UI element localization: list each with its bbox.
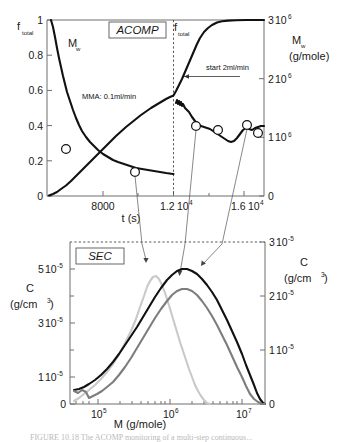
acomp-ftotal-curve [49, 20, 264, 196]
acomp-xtick-16e4-base: 10 [248, 200, 260, 212]
figure-container: 0 0.2 0.4 0.6 0.8 1 f total 0 1 10 6 2 [0, 0, 337, 442]
sec-rtick-1e-5-base: 10 [276, 344, 288, 356]
figure-caption: FIGURE 10.18 The ACOMP monitoring of a m… [30, 433, 252, 442]
sec-xtick-1e5: 10 5 [91, 407, 107, 420]
sec-rtick-3e-5-base: 10 [276, 236, 288, 248]
acomp-y-right-title-sub: w [300, 43, 306, 49]
acomp-rtick-1e6: 1 10 6 [268, 131, 292, 144]
sec-rtick-0: 0 [269, 398, 275, 410]
leader-marker-3 [185, 130, 196, 244]
acomp-panel: 0 0.2 0.4 0.6 0.8 1 f total 0 1 10 6 2 [17, 13, 329, 244]
acomp-xtick-8000: 8000 [91, 200, 115, 212]
sec-ltick-0: 0 [60, 398, 66, 410]
acomp-series-label-f-sub: total [178, 31, 189, 37]
sec-xtick-1e6-exp: 6 [175, 407, 179, 414]
sec-arrowhead-1 [143, 258, 148, 263]
sec-y-left-title: C (g/cm 3 ) [10, 282, 54, 310]
sec-ltick-3e-5-exp: -5 [57, 316, 63, 323]
acomp-rtick-1e6-base: 10 [275, 131, 287, 143]
acomp-ytick-06: 0.6 [28, 84, 43, 96]
sec-y-right-units-close: ) [324, 272, 328, 284]
leader-marker-5 [222, 129, 247, 244]
acomp-x-axis-title: t (s) [122, 212, 141, 224]
acomp-xtick-12e4-exp: 4 [189, 199, 193, 206]
acomp-left-ticks: 0 0.2 0.4 0.6 0.8 1 [28, 14, 52, 202]
sec-sample-arrows [142, 244, 222, 276]
acomp-rtick-2e6-mant: 2 [268, 73, 274, 85]
acomp-annotation-mma: MMA: 0.1ml/min [82, 92, 136, 101]
acomp-xtick-16e4-exp: 4 [260, 199, 264, 206]
acomp-y-right-title-main: M [292, 34, 301, 46]
sec-y-left-title-main: C [26, 282, 34, 294]
acomp-sec-marker-6 [254, 129, 263, 138]
sec-y-right-units: (g/cm [284, 272, 312, 284]
acomp-xtick-16e4-mant: 1.6 [231, 200, 246, 212]
acomp-annotation-start: start 2ml/min [206, 63, 249, 72]
sec-panel: 0 1 10 -5 3 10 -5 5 10 -5 C (g/cm 3 ) [10, 235, 328, 430]
sec-rtick-1e-5-mant: 1 [269, 344, 275, 356]
sec-rtick-3e-5-exp: -5 [288, 235, 294, 242]
acomp-sec-marker-2 [131, 168, 140, 177]
sec-rtick-1e-5-exp: -5 [288, 343, 294, 350]
sec-rtick-2e-5: 2 10 -5 [269, 289, 294, 302]
acomp-series-label-mw-sub: w [75, 46, 81, 52]
sec-y-right-title-main: C [300, 256, 308, 268]
acomp-ytick-04: 0.4 [28, 120, 43, 132]
acomp-rtick-2e6: 2 10 6 [268, 72, 292, 85]
sec-ltick-5e-5-exp: -5 [57, 262, 63, 269]
sec-left-ticks: 0 1 10 -5 3 10 -5 5 10 -5 [38, 262, 75, 410]
sec-ltick-3e-5-base: 10 [45, 317, 57, 329]
acomp-rtick-3e6-mant: 3 [268, 14, 274, 26]
acomp-sec-marker-1 [62, 145, 71, 154]
sec-ltick-1e-5: 1 10 -5 [38, 370, 63, 383]
acomp-y-left-title-sub: total [22, 30, 33, 36]
sec-ltick-1e-5-base: 10 [45, 371, 57, 383]
sec-ltick-5e-5-base: 10 [45, 263, 57, 275]
sec-rtick-3e-5: 3 10 -5 [269, 235, 294, 248]
sec-xtick-1e7-base: 10 [236, 408, 248, 420]
acomp-y-right-units: (g/mole) [289, 50, 329, 62]
acomp-xtick-12e4-mant: 1.2 [160, 200, 175, 212]
acomp-xtick-12e4-base: 10 [177, 200, 189, 212]
sec-rtick-3e-5-mant: 3 [269, 236, 275, 248]
acomp-rtick-2e6-exp: 6 [288, 72, 292, 79]
sec-ltick-3e-5: 3 10 -5 [38, 316, 63, 329]
sec-ltick-5e-5: 5 10 -5 [38, 262, 63, 275]
acomp-ytick-0: 0 [37, 190, 43, 202]
acomp-rtick-0: 0 [268, 190, 274, 202]
sec-rtick-2e-5-mant: 2 [269, 290, 275, 302]
acomp-sec-marker-4 [214, 126, 223, 135]
acomp-rtick-3e6-exp: 6 [288, 13, 292, 20]
acomp-rtick-1e6-exp: 6 [288, 131, 292, 138]
acomp-rtick-1e6-mant: 1 [268, 131, 274, 143]
acomp-mw-curve-phase2 [176, 100, 264, 142]
acomp-series-label-ftotal: f total [174, 21, 189, 37]
sec-rtick-2e-5-base: 10 [276, 290, 288, 302]
figure-svg: 0 0.2 0.4 0.6 0.8 1 f total 0 1 10 6 2 [0, 0, 337, 442]
sec-xtick-1e7: 10 7 [236, 407, 252, 420]
acomp-ytick-08: 0.8 [28, 49, 43, 61]
sec-ltick-1e-5-mant: 1 [38, 371, 44, 383]
sec-ltick-3e-5-mant: 3 [38, 317, 44, 329]
sec-y-right-title: C (g/cm 3 ) [284, 256, 328, 284]
sec-x-axis-title: M (g/mole) [114, 418, 167, 430]
sec-y-left-units: (g/cm [10, 298, 38, 310]
sec-rtick-1e-5: 1 10 -5 [269, 343, 294, 356]
acomp-ytick-1: 1 [37, 14, 43, 26]
acomp-xtick-16e4: 1.6 10 4 [231, 199, 264, 212]
sec-ltick-1e-5-exp: -5 [57, 370, 63, 377]
acomp-rtick-3e6: 3 10 6 [268, 13, 292, 26]
acomp-sec-marker-5 [243, 121, 252, 130]
sec-xtick-1e5-base: 10 [91, 408, 103, 420]
leader-marker-2 [135, 176, 142, 244]
acomp-rtick-3e6-base: 10 [275, 14, 287, 26]
acomp-y-left-title: f total [17, 20, 33, 36]
acomp-rtick-2e6-base: 10 [275, 73, 287, 85]
sec-xtick-1e7-exp: 7 [248, 407, 252, 414]
acomp-box-label: ACOMP [115, 24, 159, 36]
acomp-sec-marker-3 [192, 122, 201, 131]
sec-box-label: SEC [88, 250, 112, 262]
sec-curve-black [74, 269, 265, 404]
sec-y-left-units-close: ) [50, 298, 54, 310]
acomp-y-right-title: M w (g/mole) [289, 34, 329, 62]
